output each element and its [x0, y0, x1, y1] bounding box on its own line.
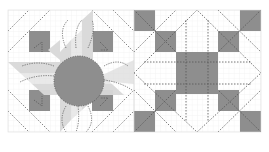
sunflower-block [8, 10, 134, 132]
sunflower-center [54, 56, 104, 106]
star-block [134, 10, 261, 132]
quilt-figure [0, 0, 269, 152]
